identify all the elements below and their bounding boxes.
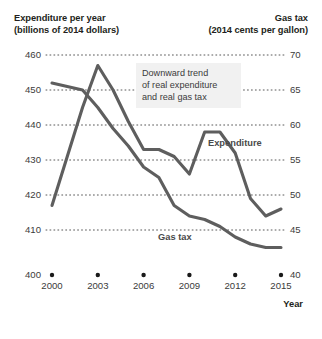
svg-text:2015: 2015 <box>270 280 291 291</box>
series-label-gas-tax: Gas tax <box>158 232 192 242</box>
svg-text:2003: 2003 <box>87 280 108 291</box>
svg-text:45: 45 <box>290 224 301 235</box>
svg-text:450: 450 <box>25 84 41 95</box>
svg-text:65: 65 <box>290 84 301 95</box>
chart-plot-area: 400410420430440450460 40455055606570 200… <box>0 0 322 339</box>
svg-text:50: 50 <box>290 189 301 200</box>
y-axis-left-tick-labels: 400410420430440450460 <box>25 49 41 280</box>
x-axis-tick-labels: 200020032006200920122015 <box>41 280 291 291</box>
annotation-callout: Downward trend of real expenditure and r… <box>136 63 241 108</box>
svg-text:460: 460 <box>25 49 41 60</box>
svg-text:400: 400 <box>25 269 41 280</box>
svg-text:55: 55 <box>290 154 301 165</box>
svg-text:430: 430 <box>25 154 41 165</box>
y-axis-right-tick-labels: 40455055606570 <box>290 49 301 280</box>
svg-text:2006: 2006 <box>133 280 154 291</box>
chart-figure: Expenditure per year (billions of 2014 d… <box>0 0 322 339</box>
annotation-line3: and real gas tax <box>142 91 236 103</box>
svg-text:420: 420 <box>25 189 41 200</box>
svg-text:440: 440 <box>25 119 41 130</box>
annotation-line1: Downward trend <box>142 67 236 79</box>
svg-text:2009: 2009 <box>179 280 200 291</box>
series-label-expenditure: Expenditure <box>208 138 262 148</box>
annotation-line2: of real expenditure <box>142 79 236 91</box>
x-axis-title: Year <box>283 299 303 309</box>
svg-text:40: 40 <box>290 269 301 280</box>
svg-text:2000: 2000 <box>41 280 62 291</box>
svg-text:60: 60 <box>290 119 301 130</box>
svg-text:410: 410 <box>25 224 41 235</box>
svg-text:2012: 2012 <box>225 280 246 291</box>
x-axis-tick-dots <box>50 273 283 277</box>
svg-text:70: 70 <box>290 49 301 60</box>
